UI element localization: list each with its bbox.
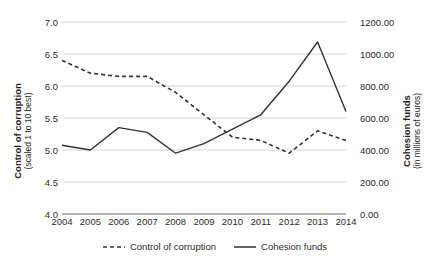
legend-label: Control of corruption: [130, 241, 216, 252]
x-axis-tick-label-2012: 2012: [274, 216, 304, 228]
y-axis-right-tick-label: 600.00: [360, 113, 410, 124]
x-axis-tick-label-2006: 2006: [104, 216, 134, 228]
dashed-line-icon: [103, 243, 125, 251]
legend-item: Cohesion funds: [234, 241, 327, 252]
x-axis-tick-label-2011: 2011: [246, 216, 276, 228]
y-axis-right-tick-label: 1000.00: [360, 49, 410, 60]
x-axis-tick-label-2014: 2014: [331, 216, 361, 228]
plot-area: [62, 22, 346, 214]
y-axis-left-tick-label: 7.0: [18, 17, 58, 28]
series-line-cohesion-funds: [62, 42, 346, 153]
y-axis-left-tick-label: 6.5: [18, 49, 58, 60]
y-axis-right-tick-label: 800.00: [360, 81, 410, 92]
y-axis-left-tick-label: 4.5: [18, 177, 58, 188]
y-axis-right-tick-label: 400.00: [360, 145, 410, 156]
chart-legend: Control of corruptionCohesion funds: [0, 241, 430, 252]
x-axis-tick-label-2004: 2004: [47, 216, 77, 228]
gridlines: [62, 22, 346, 214]
legend-label: Cohesion funds: [261, 241, 327, 252]
x-axis-tick-label-2013: 2013: [303, 216, 333, 228]
y-axis-right-title-sub: (in millions of euros): [412, 71, 423, 191]
x-axis-tick-label-2007: 2007: [132, 216, 162, 228]
y-axis-right-tick-label: 0.00: [360, 209, 410, 220]
x-axis-tick-label-2008: 2008: [161, 216, 191, 228]
y-axis-right-tick-label: 1200.00: [360, 17, 410, 28]
x-axis-tick-label-2010: 2010: [217, 216, 247, 228]
plot-svg: [62, 22, 346, 214]
x-axis-tick-label-2009: 2009: [189, 216, 219, 228]
line-chart: Control of corruption (scaled 1 to 10 be…: [0, 0, 430, 267]
y-axis-left-tick-label: 5.5: [18, 113, 58, 124]
y-axis-left-tick-label: 6.0: [18, 81, 58, 92]
series-lines: [62, 42, 346, 153]
y-axis-right-tick-label: 200.00: [360, 177, 410, 188]
x-axis-tick-label-2005: 2005: [75, 216, 105, 228]
y-axis-left-tick-label: 5.0: [18, 145, 58, 156]
solid-line-icon: [234, 243, 256, 251]
legend-item: Control of corruption: [103, 241, 216, 252]
